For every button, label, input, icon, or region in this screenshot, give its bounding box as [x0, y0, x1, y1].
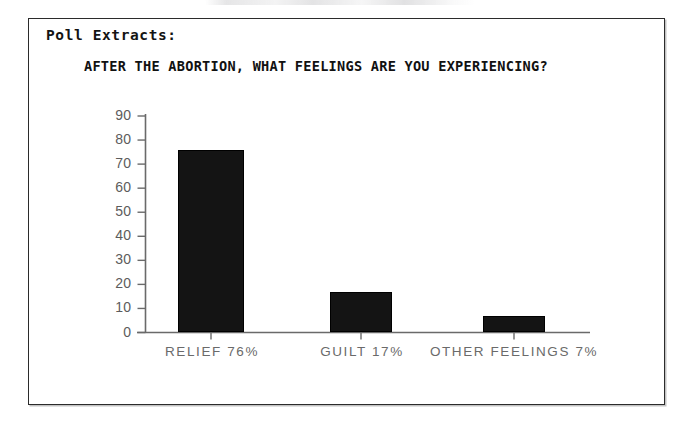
page-title: Poll Extracts:	[46, 27, 177, 43]
x-tick-label: OTHER FEELINGS 7%	[428, 344, 600, 359]
bar	[483, 316, 545, 333]
y-tick-label: 10	[102, 299, 132, 315]
scan-artifact	[205, 0, 475, 5]
y-tick-label: 40	[102, 227, 132, 243]
bar	[330, 292, 392, 333]
y-tick-label: 20	[102, 275, 132, 291]
y-tick-label: 90	[102, 107, 132, 123]
y-tick-label: 70	[102, 155, 132, 171]
y-tick-label: 60	[102, 179, 132, 195]
y-tick-label: 80	[102, 131, 132, 147]
x-tick-label: GUILT 17%	[303, 344, 421, 359]
y-tick-label: 30	[102, 251, 132, 267]
x-tick-label: RELIEF 76%	[152, 344, 272, 359]
y-tick-label: 50	[102, 203, 132, 219]
chart-title: AFTER THE ABORTION, WHAT FEELINGS ARE YO…	[84, 58, 548, 74]
y-tick-label: 0	[102, 324, 132, 340]
bar	[178, 150, 244, 333]
